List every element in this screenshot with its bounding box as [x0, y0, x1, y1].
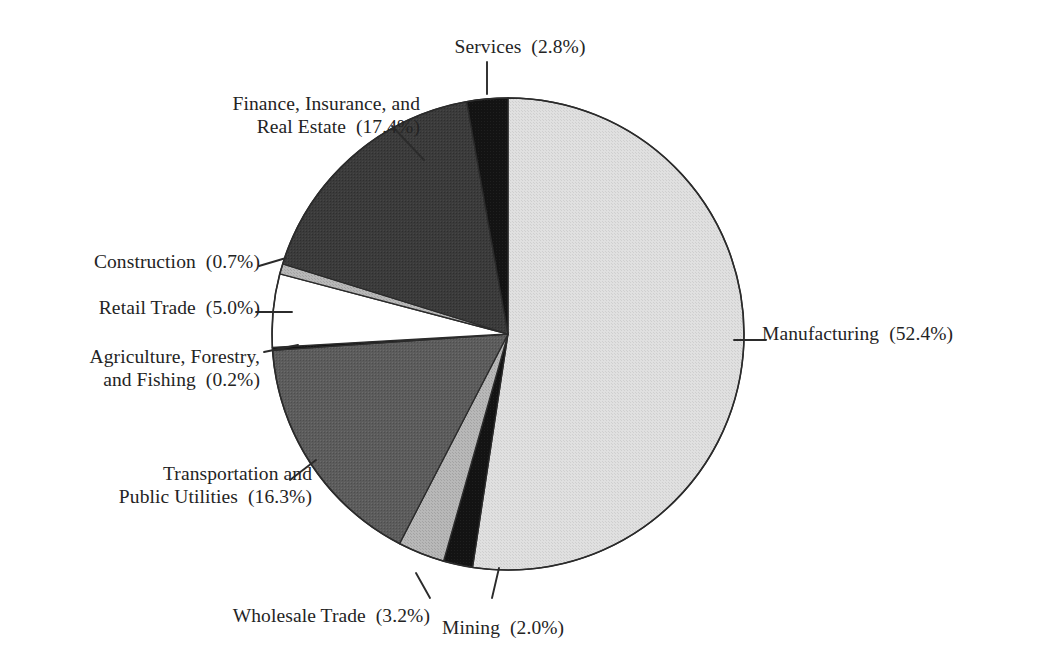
slice-label-retail-trade: Retail Trade (5.0%): [30, 296, 260, 319]
slice-label-finance-line1: Finance, Insurance, and: [233, 93, 420, 114]
slice-label-transportation: Transportation andPublic Utilities (16.3…: [62, 462, 312, 508]
slice-label-wholesale-trade: Wholesale Trade (3.2%): [150, 604, 430, 627]
pie-slice: [473, 98, 744, 570]
slice-label-agriculture-line2: and Fishing (0.2%): [103, 369, 260, 390]
leader-line-mining: [492, 568, 499, 598]
slice-label-transportation-line2: Public Utilities (16.3%): [119, 486, 312, 507]
leader-line-wholesale-trade: [416, 573, 430, 598]
slice-label-agriculture: Agriculture, Forestry,and Fishing (0.2%): [28, 345, 260, 391]
slice-label-finance-line2: Real Estate (17.4%): [257, 116, 420, 137]
pie-slices-group: [272, 98, 744, 570]
slice-label-agriculture-line1: Agriculture, Forestry,: [90, 346, 260, 367]
slice-label-transportation-line1: Transportation and: [163, 463, 312, 484]
slice-label-manufacturing: Manufacturing (52.4%): [762, 322, 1042, 345]
slice-label-services: Services (2.8%): [420, 35, 620, 58]
slice-label-construction: Construction (0.7%): [30, 250, 260, 273]
slice-label-mining: Mining (2.0%): [442, 616, 642, 639]
slice-label-finance: Finance, Insurance, andReal Estate (17.4…: [110, 92, 420, 138]
pie-chart-page: Services (2.8%) Finance, Insurance, andR…: [0, 0, 1042, 663]
